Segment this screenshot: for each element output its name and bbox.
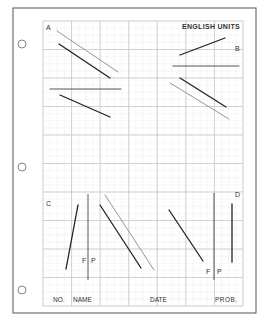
problem-label: C bbox=[46, 200, 51, 207]
plan-view-label: P bbox=[217, 268, 222, 275]
problem-label: D bbox=[235, 191, 240, 198]
binder-hole bbox=[18, 163, 26, 171]
title-block-date: DATE bbox=[150, 296, 168, 303]
front-view-label: F bbox=[82, 257, 86, 264]
title-block-prob: PROB. bbox=[215, 296, 238, 303]
title-block-name: NAME bbox=[73, 296, 92, 303]
units-label: ENGLISH UNITS bbox=[182, 23, 240, 30]
plan-view-label: P bbox=[91, 257, 96, 264]
problem-label: B bbox=[235, 45, 240, 52]
problem-label: A bbox=[46, 24, 51, 31]
drawing-sheet: ENGLISH UNITS ABCFPDFP NO. NAME DATE PRO… bbox=[0, 0, 264, 333]
front-view-label: F bbox=[206, 268, 210, 275]
title-block-no: NO. bbox=[53, 296, 65, 303]
binder-hole bbox=[18, 40, 26, 48]
binder-hole bbox=[18, 286, 26, 294]
